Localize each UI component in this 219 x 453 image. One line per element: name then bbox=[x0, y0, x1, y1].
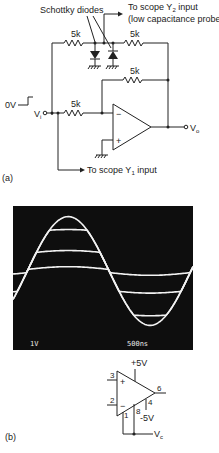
opamp-b-plus: + bbox=[120, 377, 125, 387]
y1-tap-wire bbox=[58, 113, 80, 170]
vo-label: Vo bbox=[190, 123, 200, 134]
y1-label: To scope Y1 input bbox=[87, 165, 157, 176]
junction-dot bbox=[103, 42, 106, 45]
scope-time-div: 500ns bbox=[127, 340, 148, 348]
pin6-label: 6 bbox=[157, 384, 162, 393]
junction-dot bbox=[167, 126, 170, 129]
ground-icon bbox=[95, 155, 108, 158]
step-waveform-icon bbox=[18, 97, 33, 105]
schottky-label: Schottky diodes bbox=[40, 5, 104, 15]
r4-label: 5k bbox=[71, 99, 81, 109]
scope-background bbox=[13, 206, 193, 350]
diode-1-icon bbox=[90, 51, 100, 59]
oscilloscope-screen: 1V 500ns bbox=[13, 206, 193, 350]
junction-dot bbox=[167, 79, 170, 82]
r3-label: 5k bbox=[130, 66, 140, 76]
y2-note: (low capacitance probe) bbox=[128, 14, 219, 24]
vo-terminal bbox=[184, 125, 188, 129]
y2-arrow-icon bbox=[118, 12, 123, 17]
resistor-r1-icon bbox=[64, 40, 83, 46]
scope-volts-div: 1V bbox=[30, 340, 39, 348]
pin3-label: 3 bbox=[110, 371, 115, 380]
figure-b-label: (b) bbox=[5, 432, 16, 442]
vi-label: Vi bbox=[34, 109, 41, 120]
junction-dot bbox=[51, 112, 54, 115]
resistor-r4-icon bbox=[64, 110, 83, 116]
vplus-label: +5V bbox=[131, 358, 147, 368]
ground-icon bbox=[88, 66, 101, 69]
pin2-label: 2 bbox=[110, 396, 115, 405]
pin1-label: 1 bbox=[124, 411, 129, 420]
circuit-a: Schottky diodes To scope Y2 input (low c… bbox=[2, 2, 219, 183]
pin8-label: 8 bbox=[136, 407, 141, 416]
junction-dot bbox=[132, 432, 135, 435]
circuit-b: +5V + − 3 2 6 4 -5V 8 1 Vc (b) bbox=[5, 358, 166, 442]
ground-icon bbox=[106, 66, 119, 69]
y2-label: To scope Y2 input bbox=[128, 2, 198, 13]
opamp-b-minus: − bbox=[120, 401, 125, 411]
junction-dot bbox=[101, 112, 104, 115]
figure-a-label: (a) bbox=[2, 173, 13, 183]
pin4-label: 4 bbox=[148, 398, 153, 407]
vminus-label: -5V bbox=[140, 413, 154, 423]
vi-terminal bbox=[43, 111, 47, 115]
right-vertical-wire bbox=[143, 43, 168, 127]
opamp-plus: + bbox=[116, 136, 121, 146]
y1-arrow-icon bbox=[80, 168, 85, 173]
vc-label: Vc bbox=[154, 429, 163, 440]
left-vertical-wire bbox=[52, 43, 64, 115]
input-step-label: 0V bbox=[5, 100, 16, 110]
r2-label: 5k bbox=[130, 29, 140, 39]
opamp-minus: − bbox=[116, 109, 121, 119]
r1-label: 5k bbox=[71, 29, 81, 39]
resistor-r2-icon bbox=[124, 40, 143, 46]
schottky-pointer-1 bbox=[87, 16, 95, 42]
diagram-canvas: Schottky diodes To scope Y2 input (low c… bbox=[0, 0, 219, 453]
diode-2-icon bbox=[108, 51, 118, 59]
resistor-r3-icon bbox=[123, 77, 142, 83]
